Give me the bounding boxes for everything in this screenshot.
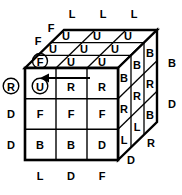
top-cell-r3c2-label: U <box>67 56 75 68</box>
right-cell-r2c1-label: R <box>120 103 128 115</box>
edge-label-bottom-1: L <box>37 170 44 182</box>
front-cell-r3c2[interactable]: B <box>67 139 75 151</box>
right-cell-r3c1-label: L <box>121 134 128 146</box>
right-cell-r3c3-label: B <box>146 109 154 121</box>
right-cell-r2c3-label: R <box>146 78 154 90</box>
top-cell-r3c3-label: U <box>98 56 106 68</box>
edge-label-top-3: L <box>131 8 138 20</box>
right-cell-r2c1[interactable]: R <box>120 103 128 115</box>
front-cell-r3c2-label: B <box>67 139 75 151</box>
edge-label-left-2: D <box>7 139 15 151</box>
cube-diagram-canvas: F U U U U U U U U <box>0 0 182 195</box>
right-cell-r2c2-label: R <box>133 90 141 102</box>
top-cell-r3c3[interactable]: U <box>98 56 106 68</box>
edge-label-upper-left-2: F <box>35 35 42 47</box>
top-cell-r2c2-label: U <box>80 43 88 55</box>
edge-label-far-right-1: B <box>168 57 176 69</box>
top-cell-r1c2[interactable]: U <box>93 30 101 42</box>
top-cell-r2c3[interactable]: U <box>111 43 119 55</box>
rubiks-cube-diagram: F U U U U U U U U <box>0 0 182 195</box>
front-cell-r1c1-label: U <box>36 81 44 93</box>
top-cell-r2c2[interactable]: U <box>80 43 88 55</box>
top-cell-r2c1-label: U <box>49 43 57 55</box>
top-cell-r3c2[interactable]: U <box>67 56 75 68</box>
front-cell-r2c1[interactable]: F <box>37 108 44 120</box>
edge-label-left-circled: R <box>3 78 19 94</box>
right-cell-r1c1[interactable]: B <box>120 72 128 84</box>
right-cell-r1c3-label: B <box>146 47 154 59</box>
edge-label-upper-left-1: F <box>48 22 55 34</box>
right-cell-r3c2-label: L <box>134 121 141 133</box>
front-face: U R R F F F B B D <box>25 68 118 160</box>
edge-label-left-group: D D <box>7 108 15 151</box>
edge-label-top-group: L L L <box>69 8 138 20</box>
edge-label-far-right-group: B D <box>168 57 176 110</box>
top-cell-r3c1-label: F <box>37 56 44 68</box>
edge-label-left-1: D <box>7 108 15 120</box>
right-cell-r1c3[interactable]: B <box>146 47 154 59</box>
top-cell-r2c3-label: U <box>111 43 119 55</box>
front-cell-r1c2-label: R <box>67 81 75 93</box>
edge-label-far-right-2: D <box>168 98 176 110</box>
front-cell-r2c3-label: F <box>99 108 106 120</box>
right-cell-r3c2[interactable]: L <box>134 121 141 133</box>
edge-label-lower-right-1: D <box>127 154 135 166</box>
front-cell-r3c3[interactable]: D <box>98 139 106 151</box>
top-cell-r1c1[interactable]: U <box>62 30 70 42</box>
top-cell-r2c1[interactable]: U <box>49 43 57 55</box>
top-cell-r1c2-label: U <box>93 30 101 42</box>
right-cell-r3c1[interactable]: L <box>121 134 128 146</box>
top-cell-r1c3-label: U <box>124 30 132 42</box>
right-cell-r2c2[interactable]: R <box>133 90 141 102</box>
edge-label-bottom-3: F <box>99 170 106 182</box>
right-cell-r1c1-label: B <box>120 72 128 84</box>
front-cell-r2c1-label: F <box>37 108 44 120</box>
edge-label-bottom-2: D <box>67 170 75 182</box>
front-cell-r2c2[interactable]: F <box>68 108 75 120</box>
front-cell-r2c2-label: F <box>68 108 75 120</box>
front-cell-r3c1-label: B <box>36 139 44 151</box>
right-cell-r2c3[interactable]: R <box>146 78 154 90</box>
front-cell-r1c3[interactable]: R <box>98 81 106 93</box>
top-cell-r1c3[interactable]: U <box>124 30 132 42</box>
front-cell-r3c1[interactable]: B <box>36 139 44 151</box>
front-cell-r1c2[interactable]: R <box>67 81 75 93</box>
right-cell-r1c2-label: B <box>133 59 141 71</box>
front-cell-r3c3-label: D <box>98 139 106 151</box>
right-cell-r3c3[interactable]: B <box>146 109 154 121</box>
edge-label-top-2: L <box>100 8 107 20</box>
edge-label-top-1: L <box>69 8 76 20</box>
edge-label-bottom-group: L D F <box>37 170 106 182</box>
front-cell-r2c3[interactable]: F <box>99 108 106 120</box>
right-cell-r1c2[interactable]: B <box>133 59 141 71</box>
edge-label-lower-right-2: R <box>147 137 155 149</box>
front-cell-r1c3-label: R <box>98 81 106 93</box>
top-cell-r1c1-label: U <box>62 30 70 42</box>
edge-label-left-circled-text: R <box>7 81 15 93</box>
